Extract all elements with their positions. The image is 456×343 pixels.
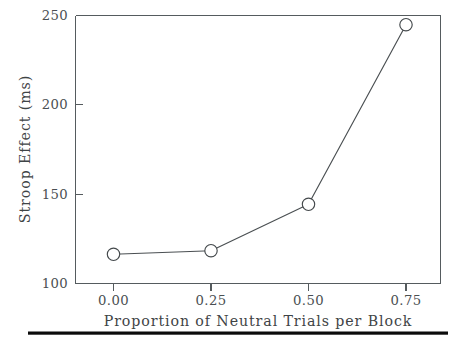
x-tick-label-0.75: 0.75	[391, 293, 422, 308]
y-tick-label-150: 150	[42, 187, 68, 202]
data-point-marker[interactable]	[205, 245, 217, 257]
data-point-marker[interactable]	[107, 248, 119, 260]
x-axis-title: Proportion of Neutral Trials per Block	[104, 313, 413, 329]
plot-frame	[76, 16, 441, 284]
x-axis-ticks	[114, 284, 407, 291]
y-tick-label-250: 250	[42, 8, 68, 23]
data-point-marker[interactable]	[302, 198, 314, 210]
figure-container: 250 200 150 100 0.00 0.25 0.50 0.75	[0, 0, 456, 343]
y-axis-tick-labels: 250 200 150 100	[42, 8, 68, 291]
footer-divider	[28, 332, 448, 335]
x-tick-label-0.25: 0.25	[196, 293, 227, 308]
y-axis-title: Stroop Effect (ms)	[17, 75, 33, 223]
x-axis-tick-labels: 0.00 0.25 0.50 0.75	[98, 293, 421, 308]
x-tick-label-0.50: 0.50	[293, 293, 324, 308]
stroop-effect-line-chart: 250 200 150 100 0.00 0.25 0.50 0.75	[0, 0, 456, 343]
y-tick-label-100: 100	[42, 276, 68, 291]
y-tick-label-200: 200	[42, 97, 68, 112]
data-series-line	[114, 25, 407, 255]
data-point-marker[interactable]	[400, 19, 412, 31]
x-tick-label-0.00: 0.00	[98, 293, 129, 308]
y-axis-ticks	[76, 16, 83, 284]
data-point-markers	[107, 19, 412, 261]
